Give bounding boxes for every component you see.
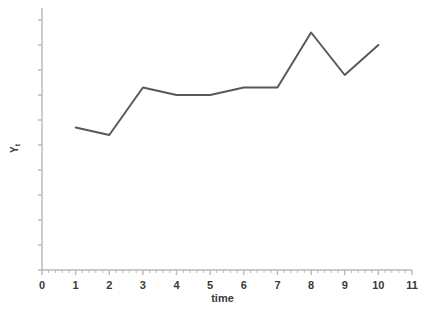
x-tick-label: 2 (97, 279, 121, 291)
x-tick-label: 4 (165, 279, 189, 291)
x-axis-title: time (0, 292, 445, 304)
x-tick-label: 6 (232, 279, 256, 291)
x-tick-label: 5 (198, 279, 222, 291)
y-axis-title-base: Y (9, 146, 20, 153)
x-tick-label: 8 (299, 279, 323, 291)
plot-area (0, 0, 445, 314)
x-tick-label: 10 (366, 279, 390, 291)
x-tick-label: 1 (64, 279, 88, 291)
data-series-line (76, 33, 379, 136)
x-tick-label: 11 (400, 279, 424, 291)
line-chart: 01234567891011 time Yt (0, 0, 445, 314)
y-axis-title-subscript: t (14, 144, 21, 146)
x-tick-label: 7 (265, 279, 289, 291)
x-tick-label: 3 (131, 279, 155, 291)
x-tick-label: 9 (333, 279, 357, 291)
x-tick-label: 0 (30, 279, 54, 291)
axes-group (42, 8, 412, 270)
tick-marks-group (38, 20, 412, 275)
y-axis-title: Yt (9, 127, 20, 171)
